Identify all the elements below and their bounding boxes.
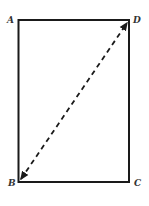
geometry-diagram: A D B C — [0, 0, 149, 206]
vertex-label-a: A — [6, 15, 14, 25]
vertex-label-c: C — [134, 178, 142, 188]
diagonal-bd-dashed — [21, 23, 127, 179]
vertex-label-b: B — [7, 178, 16, 188]
vertex-label-d: D — [132, 15, 141, 25]
